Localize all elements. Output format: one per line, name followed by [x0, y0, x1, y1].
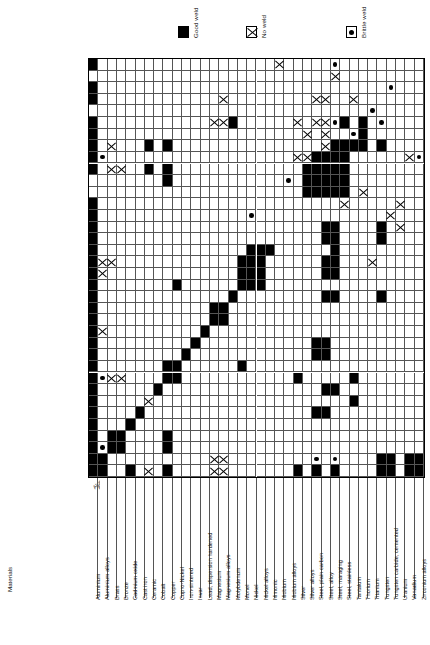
matrix-cell	[229, 117, 238, 129]
matrix-cell	[303, 384, 312, 396]
matrix-cell	[257, 82, 266, 94]
matrix-cell	[145, 210, 154, 222]
matrix-cell	[312, 431, 321, 443]
matrix-cell	[396, 198, 405, 210]
matrix-cell	[284, 256, 293, 268]
matrix-cell	[173, 187, 182, 199]
matrix-cell	[275, 59, 284, 71]
matrix-cell	[350, 396, 359, 408]
matrix-cell	[201, 198, 210, 210]
matrix-cell	[210, 419, 219, 431]
matrix-cell	[117, 129, 126, 141]
matrix-cell	[210, 233, 219, 245]
matrix-cell	[154, 210, 163, 222]
matrix-cell	[238, 94, 247, 106]
matrix-cell	[340, 59, 349, 71]
matrix-cell	[191, 431, 200, 443]
matrix-cell	[136, 222, 145, 234]
matrix-cell	[89, 384, 98, 396]
matrix-cell	[415, 175, 424, 187]
matrix-cell	[377, 152, 386, 164]
matrix-cell	[173, 407, 182, 419]
matrix-cell	[294, 198, 303, 210]
matrix-cell	[396, 431, 405, 443]
column-label: Uranium	[402, 579, 408, 601]
matrix-cell	[163, 164, 172, 176]
matrix-cell	[312, 407, 321, 419]
matrix-cell	[201, 268, 210, 280]
matrix-cell	[182, 233, 191, 245]
matrix-cell	[275, 407, 284, 419]
matrix-cell	[331, 314, 340, 326]
matrix-cell	[210, 465, 219, 477]
matrix-cell	[266, 442, 275, 454]
column-label: Thorium	[365, 579, 371, 600]
column-label: Cupro-Nickel	[179, 567, 185, 600]
matrix-cell	[331, 407, 340, 419]
matrix-cell	[340, 465, 349, 477]
matrix-cell	[257, 349, 266, 361]
matrix-cell	[303, 349, 312, 361]
matrix-cell	[415, 303, 424, 315]
matrix-cell	[117, 419, 126, 431]
column-label: Invar	[197, 587, 203, 600]
matrix-cell	[322, 407, 331, 419]
matrix-cell	[173, 303, 182, 315]
matrix-cell	[312, 233, 321, 245]
column-label: Aluminium	[95, 573, 101, 600]
matrix-cell	[191, 210, 200, 222]
column-label: Nickel	[253, 584, 259, 600]
matrix-cell	[89, 454, 98, 466]
matrix-cell	[387, 71, 396, 83]
matrix-cell	[145, 140, 154, 152]
matrix-cell	[275, 314, 284, 326]
matrix-cell	[294, 245, 303, 257]
matrix-cell	[377, 407, 386, 419]
matrix-cell	[201, 256, 210, 268]
matrix-cell	[145, 349, 154, 361]
matrix-cell	[303, 442, 312, 454]
matrix-cell	[182, 152, 191, 164]
matrix-cell	[182, 338, 191, 350]
matrix-cell	[89, 349, 98, 361]
matrix-cell	[266, 152, 275, 164]
matrix-cell	[303, 407, 312, 419]
matrix-cell	[191, 442, 200, 454]
matrix-cell	[294, 175, 303, 187]
matrix-cell	[415, 59, 424, 71]
matrix-cell	[191, 326, 200, 338]
matrix-cell	[117, 210, 126, 222]
matrix-cell	[229, 396, 238, 408]
matrix-cell	[219, 117, 228, 129]
matrix-cell	[210, 187, 219, 199]
matrix-cell	[387, 187, 396, 199]
matrix-cell	[294, 256, 303, 268]
matrix-cell	[350, 291, 359, 303]
matrix-cell	[201, 338, 210, 350]
matrix-cell	[284, 338, 293, 350]
matrix-cell	[126, 210, 135, 222]
matrix-cell	[396, 373, 405, 385]
matrix-cell	[98, 245, 107, 257]
matrix-cell	[359, 280, 368, 292]
matrix-cell	[284, 349, 293, 361]
matrix-cell	[415, 419, 424, 431]
matrix-cell	[117, 94, 126, 106]
matrix-cell	[117, 59, 126, 71]
matrix-cell	[154, 303, 163, 315]
matrix-cell	[377, 129, 386, 141]
matrix-cell	[173, 338, 182, 350]
matrix-cell	[350, 105, 359, 117]
matrix-cell	[405, 117, 414, 129]
matrix-cell	[191, 280, 200, 292]
matrix-cell	[238, 140, 247, 152]
matrix-cell	[368, 291, 377, 303]
matrix-cell	[312, 59, 321, 71]
matrix-cell	[89, 210, 98, 222]
matrix-cell	[108, 361, 117, 373]
matrix-cell	[377, 94, 386, 106]
matrix-cell	[415, 465, 424, 477]
matrix-cell	[396, 291, 405, 303]
matrix-cell	[396, 245, 405, 257]
matrix-cell	[322, 349, 331, 361]
